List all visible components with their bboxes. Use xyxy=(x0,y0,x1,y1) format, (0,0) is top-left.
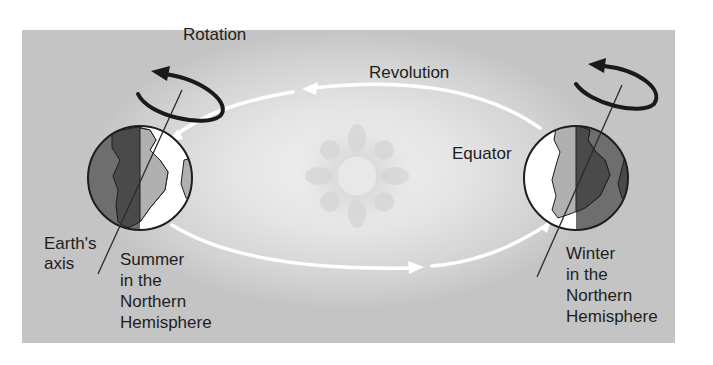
summer-label: Summer in the Northern Hemisphere xyxy=(120,249,212,333)
earth-summer-icon xyxy=(88,126,193,230)
winter-label: Winter in the Northern Hemisphere xyxy=(566,243,658,327)
earth-winter-icon xyxy=(524,125,630,230)
earths-axis-label: Earth's axis xyxy=(44,234,96,274)
rotation-label: Rotation xyxy=(183,25,246,45)
equator-label: Equator xyxy=(452,144,512,164)
sun-icon xyxy=(295,114,419,238)
rotation-arrow-right-icon xyxy=(576,58,656,109)
revolution-label: Revolution xyxy=(369,63,449,83)
